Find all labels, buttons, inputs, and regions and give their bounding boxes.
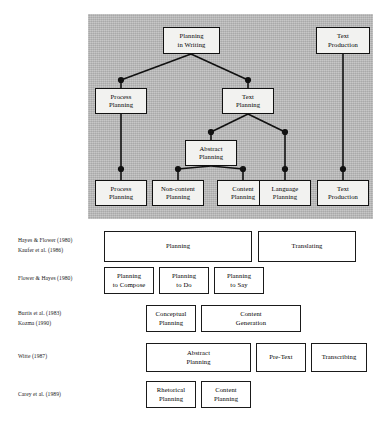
- node-language-planning-leaf: Language Planning: [259, 180, 311, 206]
- planning-taxonomy-diagram: Planning in Writing Text Production Proc…: [88, 14, 373, 219]
- node-process-planning-mid: Process Planning: [95, 88, 147, 114]
- row2-box-planning-to-compose: Planning to Compose: [104, 267, 154, 294]
- row2-box-planning-to-say: Planning to Say: [214, 267, 264, 294]
- citation-label-hayes-flower-kaufer: Hayes & Flower (1980) Kaufer et al. (198…: [18, 235, 104, 256]
- citation-label-flower-hayes: Flower & Hayes (1980): [18, 273, 104, 283]
- citation-label-witte: Witte (1987): [18, 351, 104, 361]
- citation-label-carey: Carey et al. (1989): [18, 389, 104, 399]
- row4-box-transcribing: Transcribing: [311, 343, 367, 372]
- node-text-production-root: Text Production: [316, 27, 370, 54]
- node-non-content-planning-leaf: Non-content Planning: [152, 180, 204, 206]
- row4-box-abstract-planning: Abstract Planning: [146, 343, 251, 372]
- comparison-row-flower-hayes: Flower & Hayes (1980) Planning to Compos…: [0, 267, 382, 295]
- node-planning-in-writing: Planning in Writing: [163, 27, 220, 54]
- node-text-planning-mid: Text Planning: [222, 88, 274, 114]
- node-process-planning-leaf: Process Planning: [95, 180, 147, 206]
- row5-box-content-planning: Content Planning: [201, 381, 251, 408]
- comparison-row-burtis-kozma: Burtis et al. (1983) Kozma (1990) Concep…: [0, 305, 382, 333]
- row2-box-planning-to-do: Planning to Do: [159, 267, 209, 294]
- node-text-production-leaf: Text Production: [317, 180, 369, 206]
- row1-box-translating: Translating: [258, 231, 356, 262]
- node-abstract-planning: Abstract Planning: [185, 140, 237, 166]
- citation-label-burtis-kozma: Burtis et al. (1983) Kozma (1990): [18, 308, 104, 329]
- comparison-row-carey: Carey et al. (1989) Rhetorical Planning …: [0, 381, 382, 409]
- row3-box-content-generation: Content Generation: [201, 305, 301, 332]
- comparison-row-witte: Witte (1987) Abstract Planning Pre-Text …: [0, 343, 382, 373]
- row3-box-conceptual-planning: Conceptual Planning: [146, 305, 196, 332]
- comparison-row-hayes-flower-kaufer: Hayes & Flower (1980) Kaufer et al. (198…: [0, 231, 382, 263]
- row4-box-pre-text: Pre-Text: [256, 343, 306, 372]
- row1-box-planning: Planning: [104, 231, 252, 262]
- row5-box-rhetorical-planning: Rhetorical Planning: [146, 381, 196, 408]
